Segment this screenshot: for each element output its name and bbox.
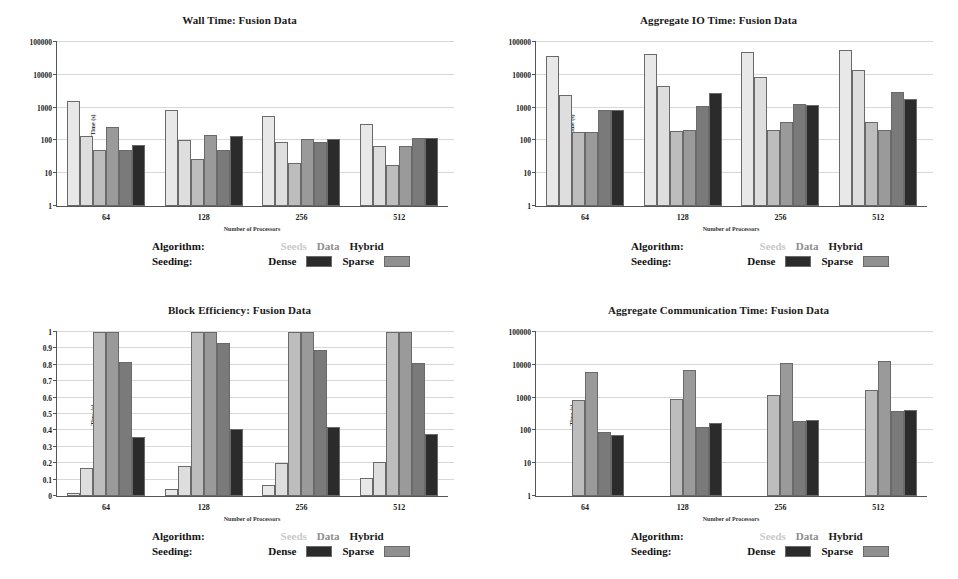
y-tick-label: 100000 (509, 328, 532, 337)
legend-swatch-dense (306, 546, 332, 557)
bar (904, 410, 917, 496)
y-tick-label: 10 (524, 169, 532, 178)
legend: Algorithm:SeedsDataHybridSeeding:DenseSp… (56, 530, 456, 560)
panel-aggregate-communication-time: Aggregate Communication Time: Fusion Dat… (479, 290, 958, 579)
bar (262, 485, 275, 496)
bar (806, 105, 819, 206)
y-tick-label: 10 (45, 169, 53, 178)
plot-frame: 00.10.20.30.40.50.60.70.80.9164128256512 (56, 332, 448, 497)
x-tick-label: 512 (872, 213, 884, 222)
bar (327, 427, 340, 496)
y-tick-label: 10000 (33, 70, 52, 79)
bar (696, 106, 709, 206)
bar (165, 110, 178, 206)
bar (67, 493, 80, 496)
bar (546, 56, 559, 206)
x-axis-label: Number of Processors (56, 226, 448, 232)
bar-group: 64 (536, 332, 634, 496)
plot-frame: 11010010001000010000064128256512 (56, 42, 448, 207)
chart-title: Aggregate Communication Time: Fusion Dat… (479, 304, 958, 316)
legend-swatch-sparse (863, 546, 889, 557)
bar-group: 512 (829, 332, 927, 496)
y-tick-label: 100 (520, 426, 531, 435)
bar (132, 437, 145, 496)
plot-area: Time (s) 1101001000100001000006412825651… (56, 42, 448, 207)
bar (598, 432, 611, 496)
legend-row-seeding: Seeding:DenseSparse (535, 255, 935, 267)
bar (670, 131, 683, 206)
bar (865, 390, 878, 496)
bar (891, 92, 904, 206)
bar (878, 361, 891, 496)
bar-groups: 64128256512 (57, 42, 448, 206)
bar (683, 370, 696, 496)
bar (230, 136, 243, 206)
legend-row-algorithm: Algorithm:SeedsDataHybrid (535, 530, 935, 542)
bar-group: 128 (634, 42, 732, 206)
x-tick-label: 128 (677, 213, 689, 222)
y-tick-label: 0.1 (43, 475, 52, 484)
legend-label-algorithm: Algorithm: (631, 240, 684, 252)
panel-wall-time: Wall Time: Fusion Data Time (s) 11010010… (0, 0, 479, 290)
bar-group: 256 (253, 332, 351, 496)
bar-group: 256 (732, 332, 830, 496)
legend-row-algorithm: Algorithm:SeedsDataHybrid (535, 240, 935, 252)
bar-groups: 64128256512 (536, 42, 927, 206)
plot-frame: 11010010001000010000064128256512 (535, 42, 927, 207)
bar (709, 93, 722, 206)
y-tick-label: 100000 (509, 38, 532, 47)
bar (839, 50, 852, 206)
bar-group: 128 (634, 332, 732, 496)
bar (572, 400, 585, 496)
bar (412, 363, 425, 496)
bar-groups: 64128256512 (536, 332, 927, 496)
y-tick-label: 1 (48, 202, 52, 211)
legend-item-seeds: Seeds (281, 530, 307, 542)
bar (93, 150, 106, 206)
bar (683, 130, 696, 206)
bar (657, 86, 670, 206)
bar (373, 462, 386, 496)
bar (852, 70, 865, 206)
bar (767, 395, 780, 496)
legend-swatch-sparse (863, 256, 889, 267)
bar (644, 54, 657, 206)
bar (806, 420, 819, 497)
y-tick-label: 0.3 (43, 442, 52, 451)
bar (67, 101, 80, 206)
legend-item-dense: Dense (747, 545, 775, 557)
x-tick-label: 512 (393, 503, 405, 512)
legend-item-seeds: Seeds (760, 240, 786, 252)
x-axis-label: Number of Processors (56, 516, 448, 522)
legend-item-seeds: Seeds (281, 240, 307, 252)
legend-swatch-dense (785, 546, 811, 557)
bar (275, 142, 288, 206)
legend-item-hybrid: Hybrid (349, 530, 383, 542)
bar-group: 64 (536, 42, 634, 206)
y-tick-label: 100000 (30, 38, 53, 47)
bar (412, 138, 425, 206)
bar (119, 150, 132, 206)
bar-group: 64 (57, 42, 155, 206)
y-tick-label: 0.2 (43, 459, 52, 468)
legend-swatch-sparse (384, 256, 410, 267)
y-tick-label: 10 (524, 459, 532, 468)
bar (178, 466, 191, 496)
bar (696, 427, 709, 496)
bar (106, 127, 119, 206)
plot-area: Time (s) 1101001000100001000006412825651… (535, 42, 927, 207)
y-tick-label: 1 (48, 328, 52, 337)
x-axis-label: Number of Processors (535, 226, 927, 232)
legend-label-seeding: Seeding: (152, 545, 192, 557)
y-tick-label: 10000 (512, 70, 531, 79)
bar-group: 512 (350, 42, 448, 206)
bar (386, 165, 399, 206)
bar (425, 434, 438, 496)
bar (373, 146, 386, 206)
bar (793, 421, 806, 496)
bar (425, 138, 438, 206)
legend-label-algorithm: Algorithm: (152, 530, 205, 542)
bar (80, 136, 93, 206)
legend: Algorithm:SeedsDataHybridSeeding:DenseSp… (56, 240, 456, 270)
bar (301, 139, 314, 206)
